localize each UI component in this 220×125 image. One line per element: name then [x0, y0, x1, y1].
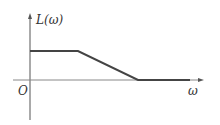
- x-axis-label: ω: [188, 84, 198, 98]
- magnitude-curve: [30, 51, 190, 80]
- y-axis-label: L(ω): [36, 13, 63, 27]
- y-axis: [28, 13, 32, 120]
- y-axis-arrow-icon: [28, 13, 32, 19]
- origin-label: O: [18, 84, 28, 98]
- x-axis-arrow-icon: [198, 78, 204, 82]
- bode-plot: [0, 0, 220, 125]
